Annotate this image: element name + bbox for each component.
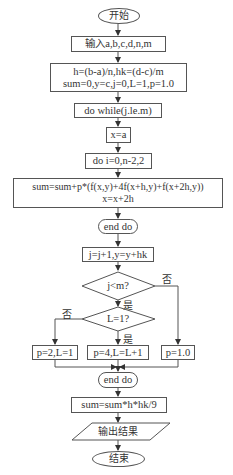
sum-box: sum=sum+p*(f(x,y)+4f(x+h,y)+f(x+2h,y)) x… <box>13 178 223 208</box>
end-outer-label: end do <box>104 374 132 386</box>
label-yes-L: 是 <box>123 331 133 346</box>
set-x-box: x=a <box>106 127 131 143</box>
end-label: 结束 <box>109 453 129 465</box>
set-x-label: x=a <box>111 129 127 141</box>
branch-p4-box: p=4,L=L+1 <box>87 345 149 360</box>
end-inner-label: end do <box>104 221 132 233</box>
inner-loop-box: do i=0,n-2,2 <box>85 153 152 169</box>
final-sum-box: sum=sum*h*hk/9 <box>71 397 167 413</box>
inner-loop-label: do i=0,n-2,2 <box>93 155 145 167</box>
branch-p2-box: p=2,L=1 <box>32 345 78 360</box>
start-terminal: 开始 <box>98 8 140 24</box>
end-terminal: 结束 <box>92 451 145 467</box>
decision-j-less-m: j<m? <box>95 279 141 293</box>
branch-p1-box: p=1.0 <box>161 345 195 360</box>
label-no-L: 否 <box>62 306 72 321</box>
end-inner-loop: end do <box>98 219 138 234</box>
cond-L-label: L=1? <box>107 313 129 325</box>
final-sum-label: sum=sum*h*hk/9 <box>81 399 156 411</box>
output-parallelogram: 输出结果 <box>85 424 151 439</box>
branch-p2-label: p=2,L=1 <box>37 347 74 359</box>
cond-j-label: j<m? <box>107 280 129 292</box>
start-label: 开始 <box>109 10 129 22</box>
sum-line-1: sum=sum+p*(f(x,y)+4f(x+h,y)+f(x+2h,y)) <box>32 181 203 193</box>
output-label: 输出结果 <box>98 426 138 438</box>
init-line-1: h=(b-a)/n,hk=(d-c)/m <box>73 66 163 78</box>
branch-p1-label: p=1.0 <box>166 347 190 359</box>
increment-label: j=j+1,y=y+hk <box>89 249 147 261</box>
sum-line-2: x=x+2h <box>102 193 133 205</box>
input-label: 输入a,b,c,d,n,m <box>85 38 151 50</box>
end-outer-loop: end do <box>98 372 138 388</box>
input-box: 输入a,b,c,d,n,m <box>71 36 166 52</box>
label-no-j: 否 <box>162 271 172 286</box>
decision-L-equals-1: L=1? <box>95 312 141 326</box>
label-yes-j: 是 <box>123 297 133 312</box>
init-box: h=(b-a)/n,hk=(d-c)/m sum=0,y=c,j=0,L=1,p… <box>50 63 187 92</box>
init-line-2: sum=0,y=c,j=0,L=1,p=1.0 <box>63 78 174 90</box>
outer-loop-box: do while(j.le.m) <box>74 103 162 118</box>
increment-box: j=j+1,y=y+hk <box>82 247 154 262</box>
branch-p4-label: p=4,L=L+1 <box>94 347 143 359</box>
outer-loop-label: do while(j.le.m) <box>84 105 151 117</box>
